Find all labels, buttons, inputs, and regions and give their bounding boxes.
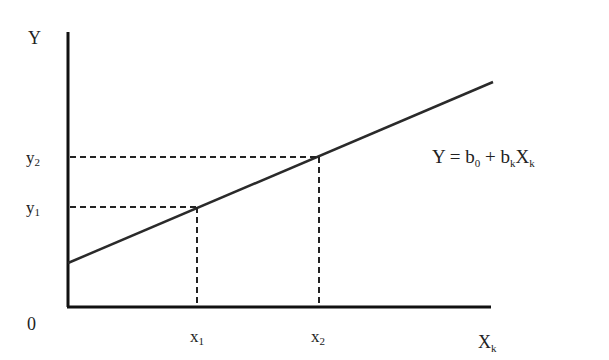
y-axis-label: Y xyxy=(28,28,41,48)
x2-label: x2 xyxy=(311,327,325,347)
y2-label: y2 xyxy=(26,148,40,168)
x-axis-label: Xk xyxy=(478,332,497,354)
origin-label: 0 xyxy=(27,314,36,334)
regression-line xyxy=(68,82,493,263)
y1-label: y1 xyxy=(26,198,40,218)
x1-label: x1 xyxy=(190,327,204,347)
regression-diagram: Y 0 y2 y1 x1 x2 Xk Y = b0 + bkXk xyxy=(0,0,609,360)
regression-equation: Y = b0 + bkXk xyxy=(432,146,535,169)
